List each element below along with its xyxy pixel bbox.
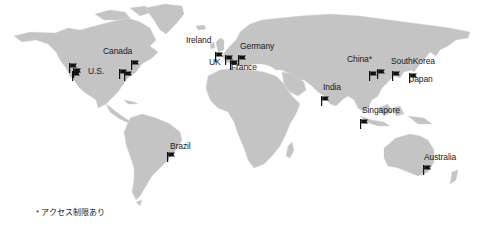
country-label-china: China* (347, 55, 372, 64)
flag-icon (321, 92, 330, 102)
flag-icon (238, 51, 247, 61)
flag-icon (215, 48, 224, 58)
country-label-us: U.S. (88, 67, 104, 76)
flag-icon (392, 67, 401, 77)
footnote: * アクセス制限あり (36, 206, 105, 217)
flag-icon (377, 65, 386, 75)
flag-icon (167, 148, 176, 158)
flag-icon (409, 69, 418, 79)
flag-icon (423, 161, 432, 171)
world-map (0, 0, 485, 227)
country-label-canada: Canada (103, 47, 132, 56)
country-label-singapore: Singapore (362, 106, 400, 115)
flag-icon (131, 56, 140, 66)
country-label-germany: Germany (240, 42, 274, 51)
flag-icon (124, 67, 133, 77)
flag-icon (360, 115, 369, 125)
country-label-southkorea: SouthKorea (391, 57, 435, 66)
country-label-ireland: Ireland (186, 36, 211, 45)
country-label-india: India (323, 83, 341, 92)
flag-icon (72, 67, 81, 77)
